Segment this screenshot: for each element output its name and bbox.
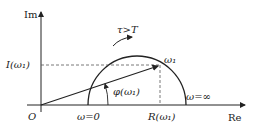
nyquist-diagram: Im Re O I(ω₁) R(ω₁) φ(ω₁) ω₁ ω=0 ω=∞ τ>T: [0, 0, 255, 130]
omega-inf-label: ω=∞: [186, 91, 211, 102]
re-axis-label: Re: [228, 112, 242, 123]
imag-component-label: I(ω₁): [5, 59, 30, 70]
direction-label: τ>T: [117, 24, 139, 35]
real-component-label: R(ω₁): [147, 111, 176, 122]
im-axis-label: Im: [24, 9, 38, 20]
omega1-label: ω₁: [164, 54, 176, 65]
omega-zero-label: ω=0: [77, 111, 101, 122]
origin-label: O: [28, 111, 36, 122]
phase-angle-label: φ(ω₁): [113, 86, 140, 97]
direction-arrow-icon: [113, 37, 132, 46]
phase-angle-arc: [105, 84, 108, 105]
phasor-vector: [41, 66, 158, 105]
